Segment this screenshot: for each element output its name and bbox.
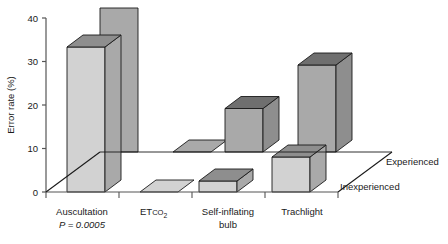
category-label-self-inflating-bulb-line2: bulb — [219, 219, 237, 230]
etco2-et-text: ET — [140, 206, 152, 217]
bar-etco2-experienced — [173, 140, 227, 152]
error-rate-3d-bar-chart: 0 10 20 30 40 Error rate (%) — [0, 0, 448, 244]
svg-text:ETCO2: ETCO2 — [140, 206, 168, 219]
annotation-p-value: P = 0.0005 — [59, 219, 106, 230]
chart-canvas: 0 10 20 30 40 Error rate (%) — [0, 0, 448, 244]
y-tick-label-0: 0 — [33, 187, 38, 198]
category-label-trachlight: Trachlight — [281, 206, 323, 217]
category-label-self-inflating-bulb-line1: Self-inflating — [202, 206, 254, 217]
y-axis-title: Error rate (%) — [5, 76, 16, 134]
bar-trachlight-experienced — [298, 53, 352, 152]
y-tick-label-30: 30 — [27, 56, 38, 67]
y-tick-label-40: 40 — [27, 13, 38, 24]
y-tick-label-10: 10 — [27, 143, 38, 154]
series-label-inexperienced: Inexperienced — [340, 181, 400, 192]
etco2-subscript-2: 2 — [164, 212, 168, 219]
bar-auscultation-inexperienced — [67, 35, 121, 192]
y-tick-label-20: 20 — [27, 100, 38, 111]
category-label-etco2: ETCO2 — [140, 206, 168, 219]
etco2-co-smallcaps: CO — [152, 208, 163, 217]
series-label-experienced: Experienced — [386, 156, 439, 167]
category-label-auscultation: Auscultation — [56, 206, 108, 217]
bar-self-inflating-bulb-experienced — [225, 97, 279, 153]
